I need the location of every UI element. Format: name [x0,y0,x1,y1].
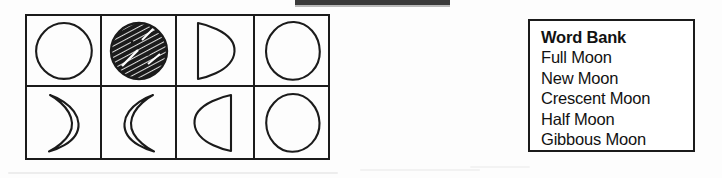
word-bank-item: New Moon [541,68,693,89]
half-circle-left-icon [192,92,238,154]
word-bank-item: Half Moon [541,109,693,130]
phase-cell-7[interactable] [177,87,255,158]
phase-cell-5[interactable] [27,87,102,158]
phase-cell-4[interactable] [255,16,330,87]
scan-artifact [360,169,480,171]
moon-phase-grid [25,14,330,160]
full-circle-outline-icon [33,20,95,82]
phase-cell-3[interactable] [177,16,255,87]
phase-cell-6[interactable] [102,87,177,158]
phase-cell-8[interactable] [255,87,330,158]
crescent-left-icon [115,92,163,154]
phase-cell-2[interactable] [102,16,177,87]
full-circle-outline-icon [262,91,324,155]
top-edge-bar-shadow [295,5,450,7]
word-bank-item: Crescent Moon [541,88,693,109]
full-circle-outline-icon [262,19,324,83]
word-bank-title: Word Bank [541,27,693,47]
scan-artifact [8,172,338,174]
hatched-filled-circle-icon [108,20,170,82]
crescent-right-icon [40,92,88,154]
word-bank-item: Full Moon [541,47,693,68]
scan-artifact [470,166,530,168]
word-bank: Word Bank Full Moon New Moon Crescent Mo… [528,19,695,152]
word-bank-list: Full Moon New Moon Crescent Moon Half Mo… [541,47,693,150]
worksheet-page: Word Bank Full Moon New Moon Crescent Mo… [0,0,722,178]
word-bank-item: Gibbous Moon [541,129,693,150]
half-circle-right-icon [192,20,238,82]
phase-cell-1[interactable] [27,16,102,87]
